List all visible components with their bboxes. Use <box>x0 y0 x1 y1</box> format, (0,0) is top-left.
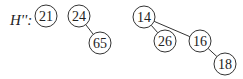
node-16: 16 <box>189 30 211 52</box>
edge-14-26 <box>151 25 158 32</box>
svg-text:65: 65 <box>93 36 107 51</box>
svg-text:16: 16 <box>193 34 207 49</box>
svg-text:26: 26 <box>158 34 172 49</box>
binomial-heap-diagram: 21246514261618 <box>0 0 243 79</box>
svg-text:14: 14 <box>137 10 151 25</box>
node-21: 21 <box>35 5 57 27</box>
svg-text:24: 24 <box>72 9 86 24</box>
node-65: 65 <box>89 32 111 54</box>
node-26: 26 <box>154 30 176 52</box>
svg-text:21: 21 <box>39 9 53 24</box>
edge-16-18 <box>208 48 217 56</box>
edge-24-65 <box>86 25 93 35</box>
node-24: 24 <box>68 5 90 27</box>
svg-text:18: 18 <box>218 57 232 72</box>
node-14: 14 <box>133 6 155 28</box>
node-18: 18 <box>214 53 236 75</box>
